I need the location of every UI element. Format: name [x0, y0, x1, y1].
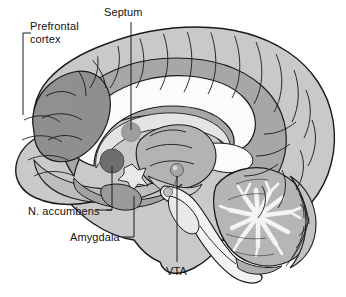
label-septum: Septum	[104, 6, 143, 19]
vta-sphere-highlight	[173, 166, 178, 171]
label-prefrontal-line1: Prefrontal	[30, 20, 92, 33]
label-amygdala: Amygdala	[70, 231, 120, 244]
label-vta: VTA	[166, 265, 187, 278]
vta-sphere	[171, 164, 184, 177]
label-n-accumbens: N. accumbens	[28, 205, 100, 218]
label-prefrontal-line2: cortex	[30, 33, 92, 46]
mammillary-body-dot	[164, 188, 173, 197]
brain-diagram-figure: Prefrontal cortex Septum N. accumbens Am…	[0, 0, 346, 297]
label-prefrontal-cortex: Prefrontal cortex	[30, 20, 92, 46]
